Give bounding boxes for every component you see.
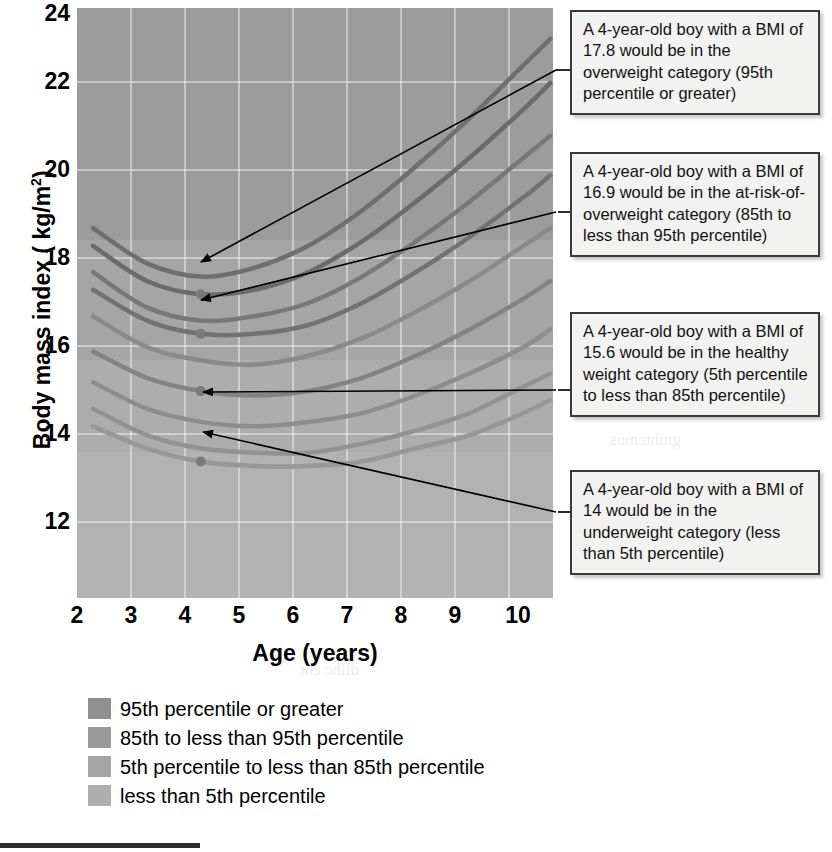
y-tick-24: 24: [14, 2, 70, 25]
legend-label: 5th percentile to less than 85th percent…: [120, 757, 485, 777]
legend-swatch-icon: [88, 785, 111, 806]
y-axis-title-main: Body mass index ( kg/m: [29, 186, 55, 449]
data-point-marker: [196, 329, 206, 339]
x-tick-5: 5: [219, 604, 259, 627]
x-tick-2: 2: [57, 604, 97, 627]
annotation-healthy-weight: A 4-year-old boy with a BMI of 15.6 woul…: [570, 312, 820, 417]
y-axis-title-end: ): [29, 170, 55, 178]
annotation-at-risk-text: A 4-year-old boy with a BMI of 16.9 woul…: [583, 161, 809, 247]
legend-item-95th-or-greater: 95th percentile or greater: [88, 694, 558, 723]
annotation-overweight: A 4-year-old boy with a BMI of 17.8 woul…: [570, 10, 820, 115]
y-tick-22: 22: [14, 70, 70, 93]
data-point-marker: [196, 386, 206, 396]
page-footer-rule: [0, 843, 200, 848]
x-tick-9: 9: [435, 604, 475, 627]
chart-plot-area: [77, 8, 553, 598]
annotation-overweight-text: A 4-year-old boy with a BMI of 17.8 woul…: [583, 19, 809, 105]
annotation-underweight-text: A 4-year-old boy with a BMI of 14 would …: [583, 479, 809, 565]
data-point-marker: [196, 457, 206, 467]
page-bleed-text: gnihtemos: [610, 430, 681, 450]
legend: 95th percentile or greater 85th to less …: [88, 694, 558, 810]
legend-label: less than 5th percentile: [120, 786, 326, 806]
percentile-curve: [93, 329, 550, 426]
x-tick-8: 8: [381, 604, 421, 627]
x-tick-4: 4: [165, 604, 205, 627]
legend-item-5th-to-85th: 5th percentile to less than 85th percent…: [88, 752, 558, 781]
legend-item-85th-to-95th: 85th to less than 95th percentile: [88, 723, 558, 752]
legend-label: 95th percentile or greater: [120, 699, 343, 719]
data-point-marker: [196, 289, 206, 299]
legend-swatch-icon: [88, 727, 111, 748]
legend-item-less-than-5th: less than 5th percentile: [88, 781, 558, 810]
percentile-curve: [93, 83, 550, 295]
annotation-at-risk-of-overweight: A 4-year-old boy with a BMI of 16.9 woul…: [570, 152, 820, 257]
annotation-healthy-text: A 4-year-old boy with a BMI of 15.6 woul…: [583, 321, 809, 407]
legend-label: 85th to less than 95th percentile: [120, 728, 404, 748]
percentile-curves: [77, 8, 553, 598]
y-axis-title: Body mass index ( kg/m2): [28, 100, 56, 520]
percentile-curve: [93, 39, 550, 277]
x-tick-6: 6: [273, 604, 313, 627]
x-tick-7: 7: [327, 604, 367, 627]
annotation-underweight: A 4-year-old boy with a BMI of 14 would …: [570, 470, 820, 575]
legend-swatch-icon: [88, 756, 111, 777]
legend-swatch-icon: [88, 698, 111, 719]
x-tick-10: 10: [498, 604, 538, 627]
x-axis-title: Age (years): [77, 640, 553, 667]
y-axis-title-exponent: 2: [28, 178, 44, 186]
x-axis-ticks: 2 3 4 5 6 7 8 9 10: [77, 604, 553, 638]
x-tick-3: 3: [111, 604, 151, 627]
